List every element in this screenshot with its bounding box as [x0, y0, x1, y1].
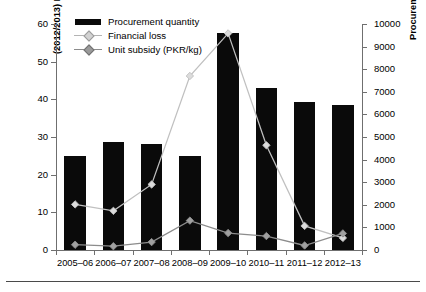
x-tick	[56, 250, 57, 255]
series-marker	[301, 242, 308, 249]
series-marker	[110, 243, 117, 250]
series-marker	[71, 241, 78, 248]
legend-label: Financial loss	[108, 30, 166, 41]
right-tick-label: 9000	[374, 42, 420, 52]
right-tick	[362, 205, 367, 206]
right-tick	[362, 182, 367, 183]
series-marker	[110, 207, 117, 214]
right-tick	[362, 227, 367, 228]
left-tick-label: 20	[8, 170, 48, 180]
plot-area: (2012/2013) PKR/kg and PKR (billions) Pr…	[56, 24, 362, 250]
x-tick	[209, 250, 210, 255]
legend-item-unit-subsidy: Unit subsidy (PKR/kg)	[74, 43, 202, 56]
right-tick-label: 0	[374, 245, 420, 255]
left-tick-label: 30	[8, 132, 48, 142]
x-tick	[286, 250, 287, 255]
right-tick-label: 3000	[374, 177, 420, 187]
legend-item-financial-loss: Financial loss	[74, 29, 202, 42]
series-marker	[148, 238, 155, 245]
right-tick-label: 5000	[374, 132, 420, 142]
x-tick	[94, 250, 95, 255]
series-marker	[224, 229, 231, 236]
right-tick	[362, 69, 367, 70]
legend-line-dark-icon	[74, 44, 102, 56]
right-tick-label: 10000	[374, 19, 420, 29]
right-tick-label: 1000	[374, 222, 420, 232]
right-tick	[362, 47, 367, 48]
chart-legend: Procurement quantity Financial loss Unit…	[74, 15, 202, 57]
legend-item-procurement-quantity: Procurement quantity	[74, 15, 202, 28]
x-tick	[133, 250, 134, 255]
right-tick-label: 4000	[374, 155, 420, 165]
series-marker	[71, 201, 78, 208]
x-tick-label: 2012–13	[316, 258, 370, 268]
legend-label: Unit subsidy (PKR/kg)	[108, 44, 202, 55]
x-tick	[247, 250, 248, 255]
footer-divider	[6, 281, 420, 282]
series-line	[75, 33, 343, 238]
series-marker	[186, 217, 193, 224]
legend-line-light-icon	[74, 30, 102, 42]
left-tick-label: 0	[8, 245, 48, 255]
line-series-overlay	[56, 24, 362, 250]
right-tick	[362, 92, 367, 93]
right-tick-label: 2000	[374, 200, 420, 210]
left-tick-label: 50	[8, 57, 48, 67]
right-tick-label: 8000	[374, 64, 420, 74]
legend-bar-swatch-icon	[74, 16, 102, 28]
x-tick	[362, 250, 363, 255]
left-tick-label: 60	[8, 19, 48, 29]
x-tick	[324, 250, 325, 255]
right-tick	[362, 114, 367, 115]
series-marker	[263, 142, 270, 149]
series-marker	[263, 232, 270, 239]
series-marker	[148, 181, 155, 188]
chart-figure: (2012/2013) PKR/kg and PKR (billions) Pr…	[0, 0, 426, 292]
legend-label: Procurement quantity	[108, 16, 199, 27]
right-tick	[362, 137, 367, 138]
series-marker	[339, 230, 346, 237]
left-tick-label: 10	[8, 207, 48, 217]
left-tick-label: 40	[8, 94, 48, 104]
right-tick	[362, 24, 367, 25]
right-tick-label: 6000	[374, 109, 420, 119]
right-tick	[362, 160, 367, 161]
series-marker	[301, 222, 308, 229]
x-tick	[171, 250, 172, 255]
right-tick-label: 7000	[374, 87, 420, 97]
